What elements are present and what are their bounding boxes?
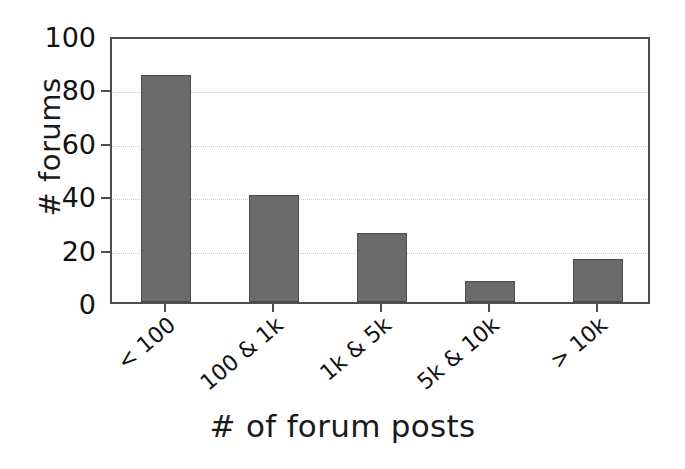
bar [465, 281, 515, 302]
bar-chart-figure: # forums 020406080100 < 100100 & 1k1k & … [0, 0, 685, 469]
y-axis-tick-label: 0 [0, 289, 96, 320]
y-axis-tick-label: 60 [0, 128, 96, 159]
x-axis-tick-label: 1k & 5k [288, 312, 396, 408]
y-axis-tick-mark [101, 144, 110, 146]
y-axis-tick-label: 80 [0, 75, 96, 106]
y-axis-tick-mark [101, 90, 110, 92]
y-axis-tick-label: 20 [0, 235, 96, 266]
y-axis-tick-label: 100 [0, 22, 96, 53]
x-axis-tick-mark [488, 304, 490, 312]
y-axis-tick-mark [101, 251, 110, 253]
x-axis-tick-label: 5k & 10k [396, 312, 504, 408]
x-axis-title: # of forum posts [0, 408, 685, 444]
bar-series-layer [112, 39, 648, 302]
bar [573, 259, 623, 302]
x-axis-tick-label: 100 & 1k [180, 312, 288, 408]
x-axis-tick-mark [272, 304, 274, 312]
x-axis-tick-mark [380, 304, 382, 312]
x-axis-tick-mark [164, 304, 166, 312]
y-axis-tick-mark [101, 197, 110, 199]
x-axis-tick-mark [596, 304, 598, 312]
bar [357, 233, 407, 302]
x-axis-tick-label: < 100 [72, 312, 180, 408]
x-axis-tick-label: > 10k [504, 312, 612, 408]
bar [141, 75, 191, 302]
plot-area [110, 37, 650, 304]
y-axis-tick-label: 40 [0, 182, 96, 213]
bar [249, 195, 299, 302]
